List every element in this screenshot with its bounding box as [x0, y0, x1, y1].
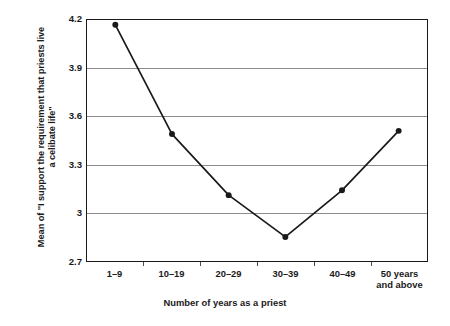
data-point-marker [112, 22, 118, 28]
data-point-marker [169, 131, 175, 137]
x-axis-tick-label: 40–49 [314, 268, 371, 279]
x-axis-tick-label: 20–29 [200, 268, 257, 279]
x-axis-title: Number of years as a priest [0, 297, 450, 308]
y-axis-tick-labels: 4.23.93.63.332.7 [50, 0, 82, 326]
x-axis-tick-label: 1–9 [86, 268, 143, 279]
series-line-celibacy-support [87, 20, 427, 261]
plot-area [86, 19, 428, 262]
x-axis-tick-mark [200, 262, 201, 266]
y-axis-tick-label: 4.2 [52, 14, 82, 24]
data-point-marker [396, 128, 402, 134]
series-polyline [115, 25, 398, 237]
y-axis-tick-label: 3 [52, 208, 82, 218]
x-axis-tick-label: 50 years and above [371, 268, 428, 291]
y-axis-tick-label: 3.9 [52, 63, 82, 73]
y-axis-tick-label: 2.7 [52, 257, 82, 267]
x-axis-tick-label: 30–39 [257, 268, 314, 279]
data-point-marker [282, 234, 288, 240]
x-axis-tick-mark [257, 262, 258, 266]
y-axis-tick-label: 3.3 [52, 160, 82, 170]
data-point-marker [226, 192, 232, 198]
x-axis-tick-mark [143, 262, 144, 266]
line-chart-figure: Mean of "I support the requirement that … [0, 0, 450, 326]
x-axis-tick-mark [314, 262, 315, 266]
data-point-marker [339, 187, 345, 193]
y-axis-title-line-1: Mean of "I support the requirement that … [36, 27, 47, 247]
y-axis-tick-label: 3.6 [52, 111, 82, 121]
x-axis-tick-label: 10–19 [143, 268, 200, 279]
x-axis-tick-mark [371, 262, 372, 266]
